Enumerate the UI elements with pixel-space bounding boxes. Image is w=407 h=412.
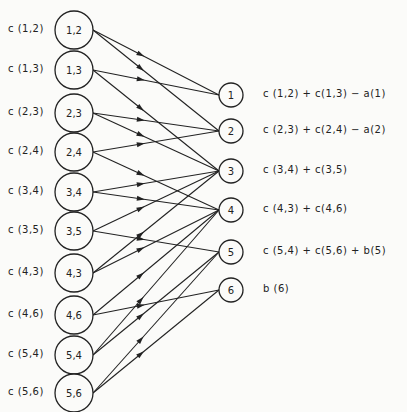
capacity-label: c (5,4) + c(5,6) + b(5) [263,245,386,256]
cost-label: c (1,3) [8,63,44,74]
edge-5-4-to-4 [93,210,219,355]
cost-label: c (5,4) [8,348,44,359]
svg-text:2: 2 [228,126,234,137]
edge-1-3-to-1 [93,70,219,95]
capacity-label: b (6) [263,283,289,294]
svg-text:5: 5 [228,247,234,258]
svg-text:4: 4 [228,205,234,216]
svg-text:6: 6 [228,285,234,296]
left-node-2-4: 2,4 [55,133,93,171]
arrowhead-icon [136,204,145,212]
svg-text:4,6: 4,6 [66,310,82,321]
cost-label: c (1,2) [8,23,44,34]
left-node-2-3: 2,3 [55,94,93,132]
cost-label: c (4,6) [8,308,44,319]
right-node-4: 4 [219,198,243,222]
left-node-1-2: 1,2 [55,11,93,49]
edge-4-6-to-6 [93,290,219,315]
right-node-5: 5 [219,240,243,264]
capacity-label: c (3,4) + c(3,5) [263,164,347,175]
svg-text:2,4: 2,4 [66,147,82,158]
svg-text:5,4: 5,4 [66,350,82,361]
cost-label: c (4,3) [8,266,44,277]
right-node-2: 2 [219,119,243,143]
arrowhead-icon [136,245,145,253]
svg-text:1: 1 [228,90,234,101]
left-node-4-6: 4,6 [55,296,93,334]
cost-label: c (2,3) [8,106,44,117]
left-nodes-group: 1,21,32,32,43,43,54,34,65,45,6 [55,11,93,412]
svg-text:2,3: 2,3 [66,108,82,119]
svg-text:3,4: 3,4 [66,187,82,198]
arrowhead-icon [136,131,145,139]
cost-label: c (3,5) [8,224,44,235]
left-node-5-6: 5,6 [55,374,93,412]
edge-5-4-to-5 [93,252,219,355]
arrowhead-icon [136,51,145,59]
left-node-4-3: 4,3 [55,254,93,292]
left-node-3-5: 3,5 [55,212,93,250]
edge-4-6-to-4 [93,210,219,315]
capacity-label: c (4,3) + c(4,6) [263,203,347,214]
cost-label: c (3,4) [8,185,44,196]
cost-label: c (5,6) [8,386,44,397]
left-node-3-4: 3,4 [55,173,93,211]
svg-text:4,3: 4,3 [66,268,82,279]
svg-text:3,5: 3,5 [66,226,82,237]
capacity-label: c (2,3) + c(2,4) − a(2) [263,124,386,135]
arrowhead-icon [136,170,145,178]
svg-text:1,2: 1,2 [66,25,82,36]
edge-3-4-to-3 [93,171,219,192]
edge-5-6-to-6 [93,290,219,393]
svg-text:1,3: 1,3 [66,65,82,76]
capacity-label: c (1,2) + c(1,3) − a(1) [263,88,386,99]
right-node-6: 6 [219,278,243,302]
left-node-1-3: 1,3 [55,51,93,89]
arrowhead-icon [136,76,145,82]
svg-text:5,6: 5,6 [66,388,82,399]
edge-2-4-to-2 [93,131,219,152]
edges-group [93,30,219,393]
right-node-1: 1 [219,83,243,107]
left-node-5-4: 5,4 [55,336,93,374]
right-nodes-group: 123456 [219,83,243,302]
edge-4-3-to-4 [93,210,219,273]
svg-text:3: 3 [228,166,234,177]
right-node-3: 3 [219,159,243,183]
edge-5-6-to-5 [93,252,219,393]
cost-label: c (2,4) [8,145,44,156]
